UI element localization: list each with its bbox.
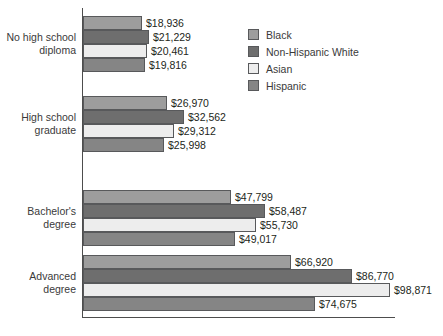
bar-value-label: $49,017 [235,232,277,246]
bar-row: $66,920 [83,255,443,269]
bar-value-label: $47,799 [231,190,273,204]
bar [83,283,390,297]
bar-row: $55,730 [83,218,443,232]
bar [83,138,164,152]
bar [83,110,184,124]
legend-swatch [248,29,259,40]
bar-group: No high school diploma$18,936$21,229$20,… [0,16,443,72]
bar [83,30,149,44]
bar [83,204,265,218]
bar [83,297,315,311]
bar-value-label: $32,562 [184,110,226,124]
bar [83,232,235,246]
bar [83,96,167,110]
bar-row: $47,799 [83,190,443,204]
bar [83,124,174,138]
bar-value-label: $98,871 [390,283,432,297]
bar-value-label: $55,730 [256,218,298,232]
bar [83,58,145,72]
legend-swatch [248,46,259,57]
legend-label: Asian [266,63,292,75]
bar-group: High school graduate$26,970$32,562$29,31… [0,96,443,152]
bar-row: $49,017 [83,232,443,246]
category-label: No high school diploma [0,31,76,56]
bar-chart: No high school diploma$18,936$21,229$20,… [0,0,443,336]
bar-value-label: $25,998 [164,138,206,152]
legend-swatch [248,80,259,91]
bar-group: Bachelor's degree$47,799$58,487$55,730$4… [0,190,443,246]
bar-row: $25,998 [83,138,443,152]
legend-item: Asian [248,60,359,77]
bar-value-label: $29,312 [174,124,216,138]
category-label: Advanced degree [0,270,76,295]
category-label: High school graduate [0,111,76,136]
bar [83,255,291,269]
bar-row: $86,770 [83,269,443,283]
bar-value-label: $86,770 [352,269,394,283]
legend-item: Black [248,26,359,43]
bar-group: Advanced degree$66,920$86,770$98,871$74,… [0,255,443,311]
bar-value-label: $21,229 [149,30,191,44]
bar-row: $74,675 [83,297,443,311]
legend-label: Hispanic [266,80,306,92]
bar [83,44,147,58]
chart-legend: BlackNon-Hispanic WhiteAsianHispanic [248,26,359,94]
legend-item: Non-Hispanic White [248,43,359,60]
category-label: Bachelor's degree [0,205,76,230]
bar-value-label: $19,816 [145,58,187,72]
bar-value-label: $66,920 [291,255,333,269]
legend-label: Non-Hispanic White [266,46,359,58]
legend-item: Hispanic [248,77,359,94]
bar-row: $58,487 [83,204,443,218]
bar-row: $98,871 [83,283,443,297]
bar-value-label: $58,487 [265,204,307,218]
bar-row: $29,312 [83,124,443,138]
plot-area: No high school diploma$18,936$21,229$20,… [0,0,443,336]
bar-row: $32,562 [83,110,443,124]
bar-value-label: $74,675 [315,297,357,311]
x-axis-line [82,317,395,318]
bar [83,190,231,204]
bar [83,218,256,232]
bar [83,16,142,30]
bar-value-label: $20,461 [147,44,189,58]
bar-value-label: $26,970 [167,96,209,110]
legend-label: Black [266,29,292,41]
bar-row: $26,970 [83,96,443,110]
bar [83,269,352,283]
legend-swatch [248,63,259,74]
bar-value-label: $18,936 [142,16,184,30]
